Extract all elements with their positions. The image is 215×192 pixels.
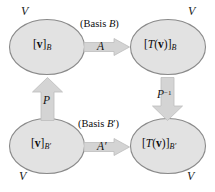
- node-text-bottom-left: [v]B′: [31, 137, 51, 149]
- space-label-top-left: V: [21, 5, 28, 17]
- diagram-canvas: [v]B V [T(v)]B V [v]B′ V [T(v)]B′ V (Bas…: [0, 0, 215, 192]
- arrow-label-bottom-horizontal: A′: [97, 141, 107, 153]
- node-text-top-left: [v]B: [33, 38, 51, 50]
- node-label-top-right: [T(v)]B: [144, 39, 176, 52]
- space-label-bottom-left: V: [19, 170, 26, 182]
- arrow-top-horizontal: [84, 38, 130, 56]
- basis-caption-top-text: (Basis B): [80, 18, 119, 29]
- space-label-top-right: V: [188, 5, 195, 17]
- basis-caption-bottom: (Basis B′): [78, 119, 119, 130]
- arrow-label-right-vertical-exponent: −1: [164, 89, 171, 97]
- node-label-bottom-right: [T(v)]B′: [142, 138, 176, 151]
- basis-caption-bottom-text: (Basis B′): [78, 118, 119, 129]
- arrow-label-right-vertical-base: P: [157, 88, 164, 100]
- arrow-label-left-vertical: P: [43, 95, 50, 107]
- arrow-label-top-horizontal: A: [97, 41, 104, 53]
- arrow-bottom-horizontal: [84, 138, 130, 156]
- basis-caption-top: (Basis B): [80, 19, 119, 30]
- node-text-bottom-right: [T(v)]B′: [142, 137, 176, 149]
- node-text-top-right: [T(v)]B: [144, 38, 176, 50]
- node-label-top-left: [v]B: [33, 39, 51, 52]
- node-label-bottom-left: [v]B′: [31, 138, 51, 151]
- arrow-label-right-vertical: P−1: [157, 89, 171, 101]
- space-label-bottom-right: V: [187, 170, 194, 182]
